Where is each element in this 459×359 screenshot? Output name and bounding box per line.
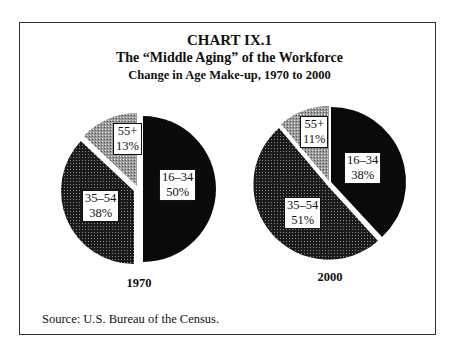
label-1970-55-plus: 55+ 13% [113, 123, 142, 155]
pie-charts [0, 0, 459, 359]
year-label-2000: 2000 [300, 270, 360, 285]
label-1970-16-34: 16–34 50% [159, 169, 196, 201]
label-2000-16-34: 16–34 38% [344, 152, 381, 184]
label-2000-55-plus: 55+ 11% [300, 116, 328, 148]
pie-2000 [253, 106, 406, 260]
source-note: Source: U.S. Bureau of the Census. [42, 312, 219, 327]
label-1970-35-54: 35–54 38% [82, 190, 119, 222]
year-label-1970: 1970 [109, 276, 169, 291]
label-2000-35-54: 35–54 51% [284, 197, 321, 229]
